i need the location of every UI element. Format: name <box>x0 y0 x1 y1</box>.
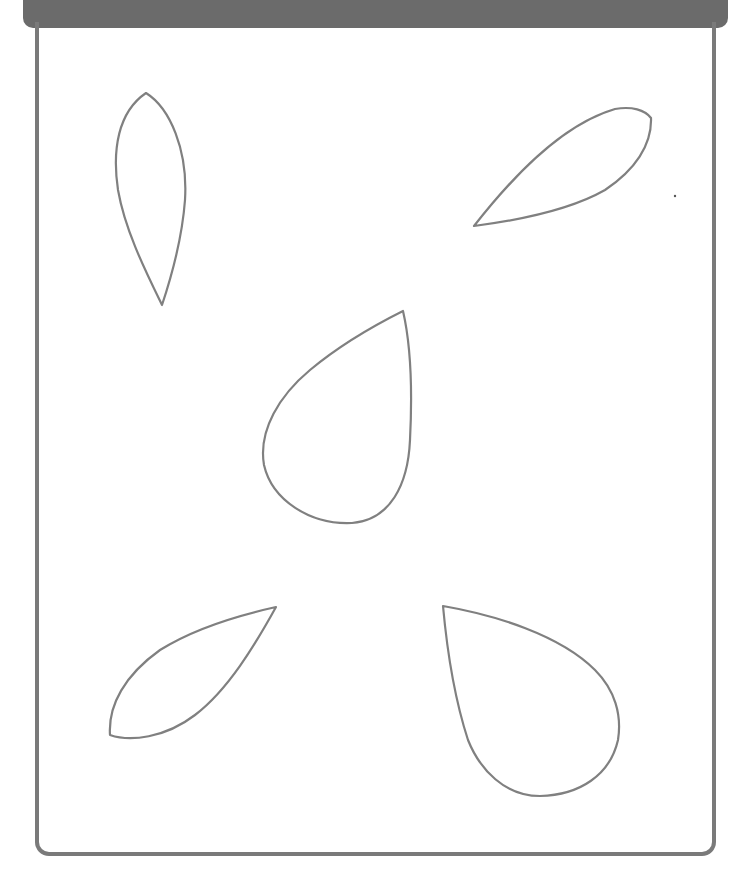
petal-top-right <box>474 108 651 226</box>
stray-mark <box>674 195 676 197</box>
petal-top-left <box>116 93 185 305</box>
shapes-canvas <box>0 0 753 886</box>
teardrop-center <box>263 311 411 523</box>
teardrop-bottom-right <box>443 606 619 796</box>
petal-bottom-left <box>110 607 276 738</box>
